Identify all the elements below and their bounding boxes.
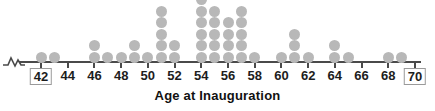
x-axis-tick-label-66: 66 bbox=[354, 68, 368, 83]
data-dot bbox=[196, 40, 207, 51]
data-dot bbox=[36, 52, 47, 63]
data-dot bbox=[196, 6, 207, 17]
data-dot bbox=[289, 40, 300, 51]
x-axis-tick-label-56: 56 bbox=[221, 68, 235, 83]
x-axis-tick-label-62: 62 bbox=[301, 68, 315, 83]
data-dot bbox=[276, 52, 287, 63]
x-axis-tick-label-50: 50 bbox=[141, 68, 155, 83]
x-axis-tick-label-70: 70 bbox=[404, 68, 426, 85]
x-axis-tick-label-60: 60 bbox=[274, 68, 288, 83]
x-axis-tick-label-42: 42 bbox=[30, 68, 52, 85]
data-dot bbox=[236, 17, 247, 28]
x-axis-tick-label-68: 68 bbox=[381, 68, 395, 83]
x-axis-tick-label-64: 64 bbox=[328, 68, 342, 83]
plot-area: 424446485052545658606264666870 bbox=[0, 0, 435, 88]
data-dot bbox=[156, 17, 167, 28]
data-dot bbox=[209, 29, 220, 40]
data-dot bbox=[383, 52, 394, 63]
data-dot bbox=[49, 52, 60, 63]
x-axis-tick-label-52: 52 bbox=[167, 68, 181, 83]
x-axis-tick-label-44: 44 bbox=[60, 68, 74, 83]
data-dot bbox=[209, 40, 220, 51]
data-dot bbox=[223, 29, 234, 40]
data-dot bbox=[303, 52, 314, 63]
data-dot bbox=[196, 52, 207, 63]
data-dot bbox=[236, 52, 247, 63]
data-dot bbox=[236, 6, 247, 17]
data-dot bbox=[209, 17, 220, 28]
data-dot bbox=[156, 6, 167, 17]
data-dot bbox=[129, 40, 140, 51]
data-dot bbox=[89, 52, 100, 63]
data-dot bbox=[196, 17, 207, 28]
data-dot bbox=[343, 52, 354, 63]
data-dot bbox=[116, 52, 127, 63]
data-dot bbox=[236, 29, 247, 40]
x-axis-tick-label-48: 48 bbox=[114, 68, 128, 83]
data-dot bbox=[289, 29, 300, 40]
data-dot bbox=[169, 40, 180, 51]
data-dot bbox=[156, 52, 167, 63]
data-dot bbox=[156, 40, 167, 51]
data-dot bbox=[329, 40, 340, 51]
data-dot bbox=[223, 17, 234, 28]
x-axis-tick-label-54: 54 bbox=[194, 68, 208, 83]
x-axis-tick-label-46: 46 bbox=[87, 68, 101, 83]
chart-title: Age at Inauguration bbox=[0, 88, 435, 103]
dotplot-figure: 424446485052545658606264666870 Age at In… bbox=[0, 0, 435, 111]
axis-break-icon bbox=[3, 54, 25, 68]
data-dot bbox=[209, 6, 220, 17]
data-dot bbox=[223, 40, 234, 51]
data-dot bbox=[89, 40, 100, 51]
data-dot bbox=[236, 40, 247, 51]
data-dot bbox=[196, 0, 207, 5]
data-dot bbox=[223, 52, 234, 63]
data-dot bbox=[156, 29, 167, 40]
data-dot bbox=[129, 52, 140, 63]
x-axis-tick-label-58: 58 bbox=[247, 68, 261, 83]
data-dot bbox=[169, 52, 180, 63]
data-dot bbox=[196, 29, 207, 40]
